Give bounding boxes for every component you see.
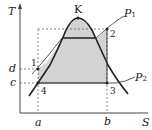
y-tick-d: d [9,63,16,74]
x-tick-a: a [35,117,42,128]
point-2-label: 2 [110,30,116,39]
p1-label: P1 [124,8,136,19]
point-1-label: 1 [31,59,37,68]
y-tick-c: c [10,77,16,88]
p2-label: P2 [135,72,147,83]
point-4 [37,82,40,85]
ts-diagram: T S K P1 P2 1 2 3 4 a b d c [0,0,152,130]
x-tick-b: b [104,116,111,127]
t-axis-label: T [8,6,15,17]
s-axis-label: S [142,117,150,128]
point-2 [106,28,109,31]
point-3-label: 3 [110,87,116,96]
point-4-label: 4 [41,87,47,96]
point-k [77,17,80,20]
point-3 [106,82,109,85]
point-1 [37,68,40,71]
critical-point-label: K [74,4,82,15]
t-axis-arrow-icon [18,3,22,9]
